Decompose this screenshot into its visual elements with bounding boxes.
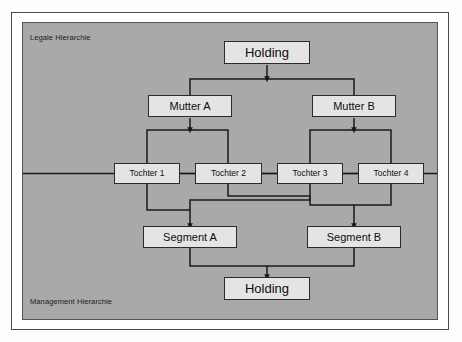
edge-tochter4-to-mutterB	[354, 130, 391, 163]
node-segment-b[interactable]: Segment B	[307, 226, 401, 248]
edge-tochter2-to-segmentB	[228, 184, 354, 205]
edge-mutterA-up	[190, 79, 267, 95]
edge-segmentB-down	[267, 248, 354, 266]
node-holding-top[interactable]: Holding	[224, 41, 310, 64]
node-mutter-b[interactable]: Mutter B	[312, 95, 396, 117]
edge-tochter4-to-segmentB	[354, 184, 391, 205]
node-tochter-3[interactable]: Tochter 3	[277, 163, 343, 184]
edge-tochter3-to-mutterB	[310, 130, 354, 163]
zone-label-legal-hierarchy: Legale Hierarchie	[30, 33, 90, 42]
node-tochter-4[interactable]: Tochter 4	[358, 163, 424, 184]
node-holding-bottom[interactable]: Holding	[224, 277, 310, 300]
edge-tochter2-to-mutterA	[190, 130, 228, 163]
edge-tochter1-to-segmentA	[147, 184, 190, 210]
node-segment-a[interactable]: Segment A	[143, 226, 237, 248]
edge-mutterB-up	[267, 79, 354, 95]
node-tochter-2[interactable]: Tochter 2	[195, 163, 262, 184]
node-tochter-1[interactable]: Tochter 1	[114, 163, 180, 184]
diagram-root: Legale Hierarchie Management Hierarchie …	[0, 0, 462, 342]
node-mutter-a[interactable]: Mutter A	[148, 95, 232, 117]
edge-tochter3-to-segmentA	[190, 184, 310, 210]
zone-label-management-hierarchy: Management Hierarchie	[30, 297, 112, 306]
edge-segmentA-down	[190, 248, 267, 266]
edge-tochter1-to-mutterA	[147, 130, 190, 163]
